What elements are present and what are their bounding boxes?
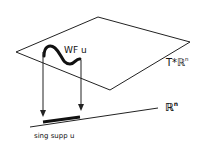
singular-support-segment <box>43 117 80 122</box>
wavefront-label: WF u <box>64 46 87 55</box>
cotangent-superscript: n <box>185 56 189 62</box>
cotangent-base-text: T*ℝ <box>166 57 185 68</box>
base-space-label: ℝn <box>165 102 178 113</box>
diagram-drawing <box>0 0 212 150</box>
singular-support-label: sing supp u <box>34 133 74 140</box>
cotangent-space-label: T*ℝn <box>166 58 189 68</box>
base-space-superscript: n <box>174 100 178 107</box>
wavefront-diagram: WF u T*ℝn ℝn sing supp u <box>0 0 212 150</box>
arrowhead-left-icon <box>40 110 46 117</box>
base-space-line <box>30 108 158 127</box>
cotangent-plane <box>16 17 190 90</box>
arrowhead-right-icon <box>78 104 84 111</box>
base-space-text: ℝ <box>165 101 174 114</box>
